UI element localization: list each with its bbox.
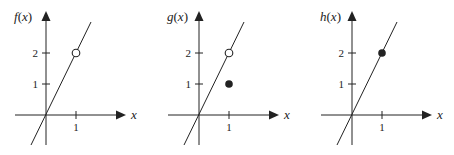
x-tick-label-1: 1	[73, 121, 79, 133]
y-tick-label-2: 2	[186, 47, 192, 59]
y-axis-arrow-icon	[348, 11, 357, 21]
function-line	[337, 22, 397, 145]
three-graphs-figure: 1 1 2 x f(x) 1 1 2 x g(x) 1 1 2 x	[0, 0, 454, 155]
y-tick-label-1: 1	[33, 78, 39, 90]
x-axis-arrow-icon	[269, 111, 279, 120]
y-tick-label-1: 1	[186, 78, 192, 90]
y-axis-arrow-icon	[195, 11, 204, 21]
y-tick-label-2: 2	[33, 47, 39, 59]
y-axis-label: h(x)	[320, 9, 341, 24]
y-axis-label: f(x)	[14, 9, 32, 24]
x-axis-arrow-icon	[422, 111, 432, 120]
x-axis-label: x	[436, 107, 443, 122]
y-tick-label-2: 2	[339, 47, 345, 59]
x-tick-label-1: 1	[379, 121, 385, 133]
open-point	[225, 49, 233, 57]
x-axis-label: x	[283, 107, 290, 122]
x-axis-label: x	[130, 107, 137, 122]
filled-point	[378, 49, 386, 57]
function-line	[31, 22, 91, 145]
y-axis-arrow-icon	[42, 11, 51, 21]
function-line	[184, 22, 244, 145]
x-tick-label-1: 1	[226, 121, 232, 133]
x-axis-arrow-icon	[116, 111, 126, 120]
y-axis-label: g(x)	[167, 9, 188, 24]
graph-f: 1 1 2 x f(x)	[14, 9, 137, 145]
open-point	[72, 49, 80, 57]
graph-g: 1 1 2 x g(x)	[167, 9, 290, 145]
graph-h: 1 1 2 x h(x)	[320, 9, 443, 145]
filled-point	[225, 80, 233, 88]
y-tick-label-1: 1	[339, 78, 345, 90]
